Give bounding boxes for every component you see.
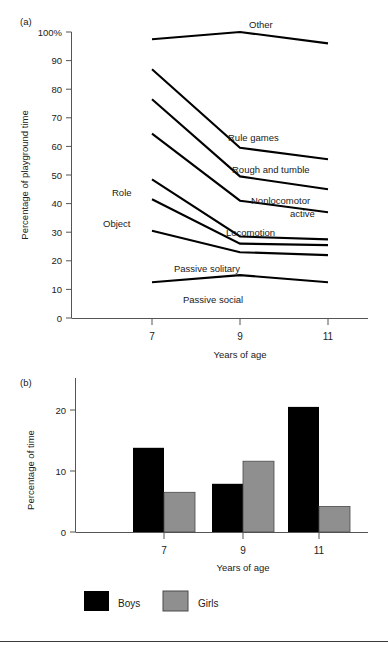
y-tick-90: 90	[51, 55, 62, 66]
y-tick-50: 50	[51, 170, 62, 181]
panel-a-y-ticks	[66, 32, 72, 318]
y-tick-80: 80	[51, 84, 62, 95]
panel-a-y-axis-title: Percentage of playground time	[19, 110, 30, 239]
panel-b-y-tick-20: 20	[55, 405, 66, 416]
series-label-object: Object	[103, 218, 131, 229]
panel-a-x-axis-title: Years of age	[214, 349, 267, 360]
series-label-role: Role	[112, 187, 132, 198]
panel-a-plot: (a)	[0, 0, 388, 372]
bar-girls-9	[243, 461, 274, 532]
panel-a-y-tick-labels: 0 10 20 30 40 50 60 70 80 90 100%	[38, 27, 63, 324]
y-tick-30: 30	[51, 227, 62, 238]
series-line-rule-games	[152, 69, 328, 159]
series-label-passive-solitary: Passive solitary	[174, 263, 240, 274]
series-label-nonlocomotor: Nonlocomotor	[251, 195, 310, 206]
panel-a-tag: (a)	[20, 16, 32, 27]
panel-a-x-ticks	[152, 319, 328, 326]
series-line-passive-solitary	[152, 275, 328, 282]
y-tick-100: 100%	[38, 27, 63, 38]
panel-a: (a)	[0, 0, 388, 372]
panel-a-series-group	[152, 32, 328, 282]
legend-label-boys: Boys	[118, 598, 140, 609]
legend-swatch-boys	[84, 591, 109, 611]
y-tick-40: 40	[51, 198, 62, 209]
series-line-other	[152, 32, 328, 43]
bar-boys-11	[288, 407, 319, 532]
series-label-locomotion: Locomotion	[226, 227, 275, 238]
series-line-rough-and-tumble	[152, 99, 328, 189]
line-chart-svg: (a)	[0, 0, 388, 372]
panel-b-y-tick-10: 10	[55, 466, 66, 477]
panel-b-x-tick-9: 9	[240, 545, 246, 556]
panel-b-tag: (b)	[20, 377, 32, 388]
panel-b-plot: (b) 0 10 20	[0, 372, 388, 634]
panel-b-y-axis-title: Percentage of time	[25, 430, 36, 510]
series-label-rule-games: Rule games	[228, 132, 279, 143]
y-tick-20: 20	[51, 255, 62, 266]
figure-root: (a)	[0, 0, 388, 659]
panel-a-series-labels: Other Rule games Rough and tumble Nonloc…	[103, 19, 315, 305]
series-label-nonlocomotor-active: active	[290, 208, 315, 219]
panel-a-x-tick-7: 7	[149, 331, 155, 342]
y-tick-0: 0	[57, 313, 62, 324]
y-tick-10: 10	[51, 284, 62, 295]
bar-boys-9	[212, 484, 243, 532]
panel-b-y-ticks	[70, 410, 76, 532]
panel-a-x-tick-11: 11	[323, 331, 334, 342]
panel-b-x-axis-title: Years of age	[217, 562, 270, 573]
y-tick-60: 60	[51, 141, 62, 152]
bar-chart-svg: (b) 0 10 20	[0, 372, 388, 634]
bar-girls-7	[164, 492, 195, 532]
panel-b: (b) 0 10 20	[0, 372, 388, 634]
bar-girls-11	[319, 506, 350, 532]
series-label-rough-and-tumble: Rough and tumble	[232, 164, 310, 175]
bar-boys-7	[133, 448, 164, 532]
series-label-other: Other	[249, 19, 273, 30]
legend-swatch-girls	[163, 591, 188, 611]
series-label-passive-social: Passive social	[183, 294, 243, 305]
panel-b-bars	[133, 407, 350, 532]
y-tick-70: 70	[51, 112, 62, 123]
panel-b-x-tick-7: 7	[161, 545, 167, 556]
panel-b-legend: Boys Girls	[84, 591, 219, 611]
panel-b-y-tick-0: 0	[61, 527, 66, 538]
bottom-divider	[0, 641, 388, 642]
panel-b-x-tick-11: 11	[314, 545, 325, 556]
panel-b-x-ticks	[164, 533, 319, 540]
panel-a-x-tick-9: 9	[237, 331, 243, 342]
legend-label-girls: Girls	[198, 598, 219, 609]
